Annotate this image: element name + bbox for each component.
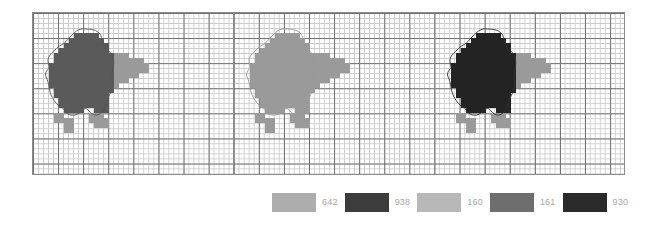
pixel-cell <box>526 68 531 73</box>
pixel-cell <box>275 93 280 98</box>
pixel-cell <box>79 98 84 103</box>
pixel-cell <box>84 33 89 38</box>
pixel-cell <box>491 93 496 98</box>
pixel-cell <box>506 53 511 58</box>
pixel-cell <box>260 78 265 83</box>
sheep-legs-panel-left <box>54 113 109 133</box>
pixel-cell <box>94 123 99 128</box>
pixel-cell <box>124 53 129 58</box>
pixel-cell <box>335 58 340 63</box>
pixel-cell <box>476 68 481 73</box>
pixel-cell <box>260 53 265 58</box>
pixel-cell <box>491 73 496 78</box>
pixel-cell <box>541 58 546 63</box>
pixel-cell <box>506 83 511 88</box>
pixel-cell <box>506 68 511 73</box>
pixel-cell <box>89 43 94 48</box>
pixel-cell <box>541 68 546 73</box>
pixel-cell <box>300 98 305 103</box>
pixel-cell <box>54 68 59 73</box>
pixel-cell <box>89 118 94 123</box>
pixel-cell <box>531 68 536 73</box>
pixel-cell <box>305 63 310 68</box>
pixel-cell <box>471 103 476 108</box>
pixel-cell <box>290 73 295 78</box>
pixel-cell <box>119 68 124 73</box>
pixel-cell <box>89 73 94 78</box>
pixel-cell <box>456 63 461 68</box>
pixel-cell <box>104 73 109 78</box>
pixel-cell <box>69 123 74 128</box>
pixel-cell <box>280 73 285 78</box>
pixel-cell <box>285 53 290 58</box>
pixel-cell <box>305 118 310 123</box>
pixel-cell <box>260 58 265 63</box>
pixel-cell <box>290 58 295 63</box>
pixel-cell <box>295 43 300 48</box>
pixel-cell <box>295 73 300 78</box>
pixel-cell <box>491 68 496 73</box>
pixel-cell <box>84 38 89 43</box>
pixel-cell <box>456 118 461 123</box>
pixel-cell <box>265 48 270 53</box>
pixel-cell <box>64 128 69 133</box>
pixel-cell <box>270 78 275 83</box>
pixel-cell <box>79 83 84 88</box>
pixel-cell <box>511 73 516 78</box>
pixel-cell <box>496 123 501 128</box>
pixel-cell <box>305 83 310 88</box>
pixel-cell <box>79 38 84 43</box>
pixel-cell <box>290 83 295 88</box>
pixel-cell <box>74 73 79 78</box>
pixel-cell <box>270 83 275 88</box>
pixel-cell <box>325 78 330 83</box>
pixel-cell <box>476 58 481 63</box>
pixel-cell <box>285 98 290 103</box>
pixel-cell <box>64 98 69 103</box>
pixel-cell <box>325 53 330 58</box>
pixel-cell <box>270 123 275 128</box>
pixel-cell <box>89 63 94 68</box>
pixel-cell <box>295 38 300 43</box>
pixel-cell <box>69 43 74 48</box>
pixel-cell <box>99 83 104 88</box>
pixel-cell <box>69 53 74 58</box>
pixel-cell <box>89 83 94 88</box>
pixel-cell <box>139 68 144 73</box>
pixel-cell <box>104 68 109 73</box>
pixel-cell <box>275 108 280 113</box>
pixel-cell <box>64 103 69 108</box>
pixel-cell <box>94 98 99 103</box>
pixel-cell <box>255 113 260 118</box>
pixel-cell <box>295 93 300 98</box>
pixel-cell <box>84 83 89 88</box>
pixel-cell <box>285 103 290 108</box>
pixel-cell <box>265 98 270 103</box>
pixel-cell <box>114 63 119 68</box>
pixel-cell <box>54 83 59 88</box>
pixel-cell <box>511 78 516 83</box>
pixel-cell <box>79 73 84 78</box>
pixel-cell <box>295 98 300 103</box>
pixel-cell <box>476 63 481 68</box>
pixel-cell <box>496 83 501 88</box>
pixel-cell <box>265 93 270 98</box>
pixel-cell <box>260 63 265 68</box>
pixel-cell <box>280 83 285 88</box>
pixel-cell <box>285 93 290 98</box>
pixel-cell <box>270 88 275 93</box>
pixel-cell <box>84 73 89 78</box>
legend-swatch-938 <box>345 193 389 212</box>
pixel-cell <box>104 63 109 68</box>
pixel-cell <box>79 43 84 48</box>
pixel-cell <box>104 123 109 128</box>
pixel-cell <box>300 93 305 98</box>
pixel-cell <box>506 123 511 128</box>
pixel-cell <box>300 48 305 53</box>
pixel-cell <box>320 78 325 83</box>
pixel-cell <box>109 78 114 83</box>
pixel-cell <box>486 53 491 58</box>
pixel-cell <box>476 83 481 88</box>
pixel-cell <box>521 63 526 68</box>
pixel-cell <box>486 38 491 43</box>
